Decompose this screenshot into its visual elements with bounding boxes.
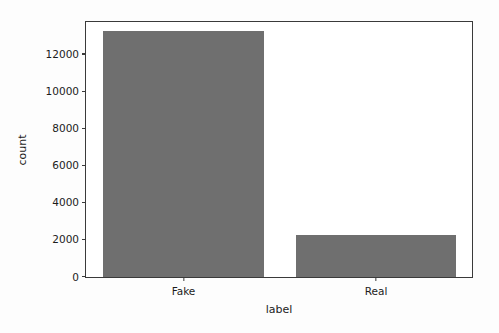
x-tick-label-fake: Fake — [172, 286, 196, 297]
bar-fake[interactable] — [103, 31, 264, 277]
x-axis-title: label — [266, 303, 293, 316]
y-tick-label-2000: 2000 — [52, 235, 86, 246]
y-tick-label-8000: 8000 — [52, 124, 86, 135]
y-axis-title: count — [16, 134, 29, 165]
y-tick-label-0: 0 — [72, 272, 86, 283]
y-tick-label-10000: 10000 — [46, 87, 86, 98]
x-tick-mark-real — [375, 277, 376, 281]
x-tick-mark-fake — [183, 277, 184, 281]
bar-chart-figure: count label 0 2000 4000 6000 8000 10000 … — [0, 0, 499, 333]
x-tick-label-real: Real — [365, 286, 388, 297]
y-tick-label-4000: 4000 — [52, 198, 86, 209]
plot-area: 0 2000 4000 6000 8000 10000 12000 Fake R… — [85, 21, 473, 278]
y-tick-label-6000: 6000 — [52, 161, 86, 172]
bar-real[interactable] — [296, 235, 456, 277]
y-tick-label-12000: 12000 — [46, 50, 86, 61]
